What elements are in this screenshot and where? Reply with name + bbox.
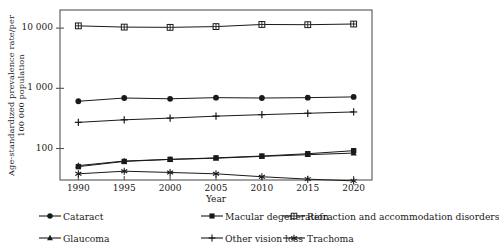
plot-area: [0, 0, 455, 200]
legend-label: Glaucoma: [63, 233, 110, 244]
legend-item-trachoma[interactable]: Trachoma: [282, 228, 354, 248]
series-cataract: [75, 94, 356, 104]
legend-marker-filled-square-icon: [200, 209, 224, 223]
legend-item-cataract[interactable]: Cataract: [38, 206, 103, 226]
legend-marker-filled-circle-icon: [38, 209, 62, 223]
legend-label: Trachoma: [307, 233, 354, 244]
legend-marker-open-square-cross-icon: [282, 209, 306, 223]
y-tick-label: 10 000: [22, 22, 54, 32]
x-tick-label: 2020: [330, 183, 378, 193]
x-tick-label: 2010: [238, 183, 286, 193]
legend-item-glaucoma[interactable]: Glaucoma: [38, 228, 110, 248]
legend-item-refraction-and-accommodation-disorders[interactable]: Refraction and accommodation disorders: [282, 206, 499, 226]
y-tick-label: 100: [36, 143, 53, 153]
legend-label: Cataract: [63, 211, 103, 222]
series-other-vision-loss: [75, 108, 357, 126]
x-tick-label: 1990: [54, 183, 102, 193]
chart-legend: CataractMacular degenerationRefraction a…: [0, 206, 455, 252]
series-trachoma: [75, 168, 356, 185]
legend-row: GlaucomaOther vision lossTrachoma: [0, 228, 455, 248]
legend-row: CataractMacular degenerationRefraction a…: [0, 206, 455, 226]
x-tick-label: 1995: [100, 183, 148, 193]
legend-label: Refraction and accommodation disorders: [307, 211, 499, 222]
legend-marker-plus-icon: [200, 231, 224, 245]
x-tick-label: 2005: [192, 183, 240, 193]
legend-marker-asterisk-icon: [282, 231, 306, 245]
series-glaucoma: [75, 150, 356, 168]
legend-marker-filled-triangle-icon: [38, 231, 62, 245]
y-tick-label: 1 000: [27, 82, 53, 92]
series-refraction-and-accommodation-disorders: [75, 21, 356, 30]
x-axis-title: Year: [60, 194, 372, 204]
x-tick-label: 2000: [146, 183, 194, 193]
x-tick-label: 2015: [284, 183, 332, 193]
